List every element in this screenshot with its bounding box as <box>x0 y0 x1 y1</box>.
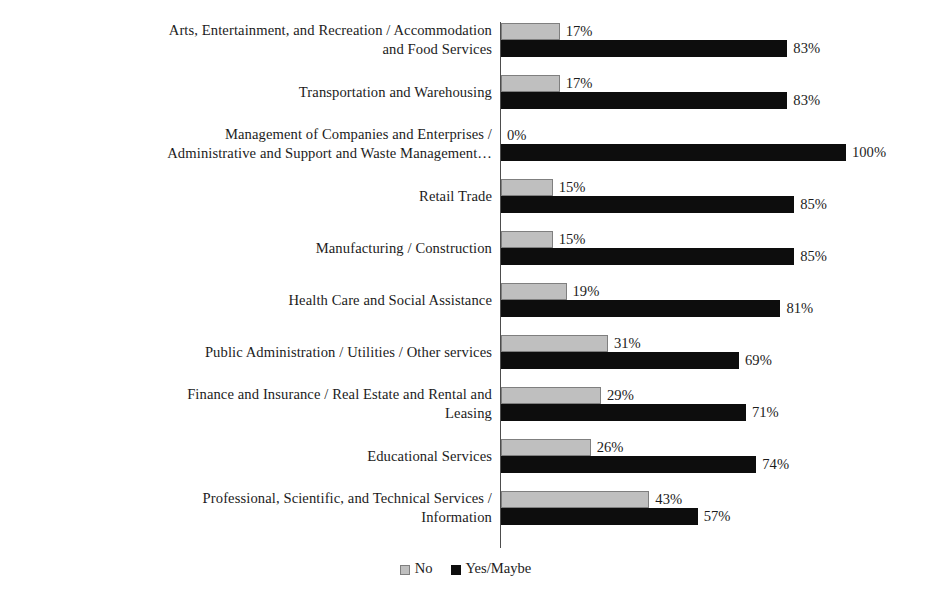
bar-value-label: 85% <box>800 246 827 266</box>
category-group: Transportation and Warehousing17%83% <box>0 75 931 109</box>
category-label: Educational Services <box>22 447 492 466</box>
bar-row: 71% <box>501 404 931 421</box>
bar-no-series <box>501 283 567 300</box>
bar-yes-maybe-series <box>501 92 787 109</box>
bar-pair: 26%74% <box>501 439 931 473</box>
bar-row: 85% <box>501 196 931 213</box>
bar-value-label: 15% <box>559 177 586 197</box>
category-group: Manufacturing / Construction15%85% <box>0 231 931 265</box>
category-label: Finance and Insurance / Real Estate and … <box>22 385 492 423</box>
bar-yes-maybe-series <box>501 508 698 525</box>
bar-value-label: 26% <box>597 437 624 457</box>
category-group: Management of Companies and Enterprises … <box>0 127 931 161</box>
bar-yes-maybe-series <box>501 40 787 57</box>
category-group: Public Administration / Utilities / Othe… <box>0 335 931 369</box>
bar-row: 26% <box>501 439 931 456</box>
bar-row: 85% <box>501 248 931 265</box>
bar-value-label: 17% <box>566 21 593 41</box>
bar-no-series <box>501 75 560 92</box>
bar-value-label: 0% <box>507 125 526 145</box>
bar-row: 15% <box>501 231 931 248</box>
bar-value-label: 71% <box>752 402 779 422</box>
bar-row: 19% <box>501 283 931 300</box>
bar-no-series <box>501 491 649 508</box>
legend-item[interactable]: Yes/Maybe <box>451 560 532 577</box>
category-label: Public Administration / Utilities / Othe… <box>22 343 492 362</box>
legend-swatch-icon <box>451 565 461 575</box>
bar-pair: 17%83% <box>501 75 931 109</box>
legend-label: No <box>415 560 433 577</box>
bar-row: 29% <box>501 387 931 404</box>
bar-value-label: 29% <box>607 385 634 405</box>
bar-row: 17% <box>501 75 931 92</box>
bar-value-label: 83% <box>793 90 820 110</box>
plot-area: Arts, Entertainment, and Recreation / Ac… <box>0 0 931 556</box>
bar-row: 100% <box>501 144 931 161</box>
category-group: Arts, Entertainment, and Recreation / Ac… <box>0 23 931 57</box>
bar-row: 31% <box>501 335 931 352</box>
bar-no-series <box>501 23 560 40</box>
bar-pair: 29%71% <box>501 387 931 421</box>
bar-value-label: 19% <box>573 281 600 301</box>
category-group: Educational Services26%74% <box>0 439 931 473</box>
bar-yes-maybe-series <box>501 456 756 473</box>
bar-value-label: 57% <box>704 506 731 526</box>
bar-value-label: 83% <box>793 38 820 58</box>
bar-no-series <box>501 179 553 196</box>
bar-pair: 43%57% <box>501 491 931 525</box>
bar-value-label: 69% <box>745 350 772 370</box>
bar-pair: 31%69% <box>501 335 931 369</box>
bar-row: 74% <box>501 456 931 473</box>
category-label: Manufacturing / Construction <box>22 239 492 258</box>
bar-row: 81% <box>501 300 931 317</box>
legend-swatch-icon <box>400 565 410 575</box>
bar-pair: 17%83% <box>501 23 931 57</box>
bar-value-label: 43% <box>655 489 682 509</box>
bar-no-series <box>501 335 608 352</box>
bar-chart: Arts, Entertainment, and Recreation / Ac… <box>0 0 931 607</box>
category-label: Retail Trade <box>22 187 492 206</box>
bar-value-label: 74% <box>762 454 789 474</box>
category-label: Transportation and Warehousing <box>22 83 492 102</box>
bar-value-label: 100% <box>852 142 886 162</box>
category-label: Professional, Scientific, and Technical … <box>22 489 492 527</box>
bar-pair: 19%81% <box>501 283 931 317</box>
bar-pair: 0%100% <box>501 127 931 161</box>
bar-pair: 15%85% <box>501 231 931 265</box>
bar-yes-maybe-series <box>501 404 746 421</box>
legend-item[interactable]: No <box>400 560 433 577</box>
bar-value-label: 81% <box>786 298 813 318</box>
bar-yes-maybe-series <box>501 144 846 161</box>
legend-label: Yes/Maybe <box>466 560 532 577</box>
bar-no-series <box>501 387 601 404</box>
bar-yes-maybe-series <box>501 300 780 317</box>
bar-value-label: 17% <box>566 73 593 93</box>
category-label: Arts, Entertainment, and Recreation / Ac… <box>22 21 492 59</box>
bar-pair: 15%85% <box>501 179 931 213</box>
category-group: Professional, Scientific, and Technical … <box>0 491 931 525</box>
bar-yes-maybe-series <box>501 196 794 213</box>
bar-row: 83% <box>501 40 931 57</box>
bar-value-label: 31% <box>614 333 641 353</box>
chart-legend: NoYes/Maybe <box>0 560 931 577</box>
bar-row: 83% <box>501 92 931 109</box>
category-group: Health Care and Social Assistance19%81% <box>0 283 931 317</box>
bar-no-series <box>501 231 553 248</box>
bar-row: 15% <box>501 179 931 196</box>
bar-row: 69% <box>501 352 931 369</box>
bar-no-series <box>501 439 591 456</box>
bar-value-label: 85% <box>800 194 827 214</box>
category-label: Health Care and Social Assistance <box>22 291 492 310</box>
bar-yes-maybe-series <box>501 352 739 369</box>
bar-row: 57% <box>501 508 931 525</box>
category-group: Retail Trade15%85% <box>0 179 931 213</box>
category-group: Finance and Insurance / Real Estate and … <box>0 387 931 421</box>
bar-row: 17% <box>501 23 931 40</box>
bar-value-label: 15% <box>559 229 586 249</box>
bar-yes-maybe-series <box>501 248 794 265</box>
category-label: Management of Companies and Enterprises … <box>22 125 492 163</box>
